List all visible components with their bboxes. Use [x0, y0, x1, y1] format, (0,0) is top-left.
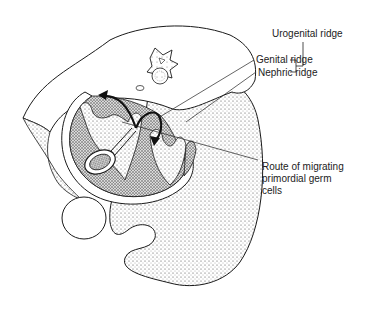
- limb-bud: [62, 197, 106, 239]
- embryo-illustration: [0, 0, 370, 310]
- label-nephric-ridge: Nephric ridge: [258, 67, 317, 78]
- label-route-line3: cells: [262, 185, 282, 196]
- label-genital-ridge: Genital ridge: [256, 54, 313, 65]
- label-route-line1: Route of migrating: [262, 161, 344, 172]
- label-urogenital-ridge: Urogenital ridge: [272, 28, 343, 39]
- label-route-line2: primordial germ: [262, 173, 331, 184]
- embryo-diagram: Urogenital ridge Genital ridge Nephric r…: [0, 0, 370, 310]
- notochord: [136, 86, 144, 91]
